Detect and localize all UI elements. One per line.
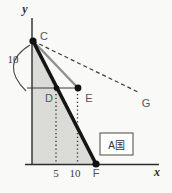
x-axis-label: x	[153, 165, 160, 179]
brace-value-label: 10	[8, 53, 20, 65]
diagram-figure: A国 y x 10 C D E G F 5 10	[0, 0, 172, 193]
region-label-text: A国	[108, 140, 125, 151]
point-c-label: C	[40, 30, 48, 42]
point-f-label: F	[93, 167, 100, 179]
point-e-label: E	[85, 92, 92, 104]
economics-graph-canvas: A国 y x 10 C D E G F 5 10	[0, 0, 172, 193]
point-d-label: D	[45, 92, 53, 104]
brace-arc	[13, 45, 30, 91]
point-g-label: G	[142, 97, 151, 109]
tick-label-10: 10	[70, 167, 82, 179]
point-d-dot	[54, 85, 60, 91]
tick-label-5: 5	[53, 167, 59, 179]
point-c-dot	[29, 37, 36, 44]
y-axis-label: y	[20, 2, 28, 16]
point-e-dot	[75, 85, 82, 92]
